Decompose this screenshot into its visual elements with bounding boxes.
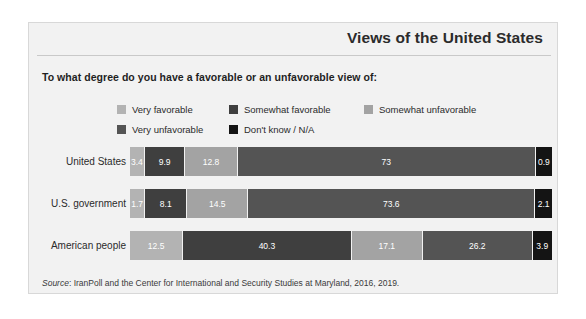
legend-item-very-unfavorable: Very unfavorable	[117, 124, 229, 135]
bar-segment-very-favorable: 1.7	[130, 189, 144, 218]
bar-segment-somewhat-favorable: 40.3	[182, 231, 350, 260]
source-label: Source	[42, 278, 69, 288]
bar-segment-value: 3.9	[536, 241, 548, 251]
bar-row-label: American people	[42, 240, 130, 251]
chart-card: Views of the United States To what degre…	[28, 22, 558, 294]
bar-segment-somewhat-unfavorable: 14.5	[186, 189, 247, 218]
bar-segment-value: 14.5	[209, 199, 226, 209]
legend-item-very-favorable: Very favorable	[117, 104, 229, 115]
legend-label: Somewhat favorable	[244, 104, 331, 115]
legend-row: Very unfavorable Don't know / N/A	[117, 119, 537, 139]
bar-track: 1.7 8.1 14.5 73.6 2.1	[130, 189, 552, 218]
bar-segment-value: 0.9	[538, 157, 550, 167]
source-text: : IranPoll and the Center for Internatio…	[69, 278, 399, 288]
bar-segment-somewhat-favorable: 9.9	[144, 147, 184, 176]
bar-segment-very-unfavorable: 26.2	[422, 231, 531, 260]
chart-legend: Very favorable Somewhat favorable Somewh…	[117, 99, 537, 139]
bar-segment-value: 8.1	[160, 199, 172, 209]
bar-segment-very-favorable: 12.5	[130, 231, 182, 260]
bar-segment-value: 17.1	[379, 241, 396, 251]
bar-segment-very-unfavorable: 73	[237, 147, 535, 176]
legend-item-dont-know: Don't know / N/A	[229, 124, 364, 135]
legend-label: Somewhat unfavorable	[379, 104, 476, 115]
header-divider	[37, 55, 551, 56]
chart-question: To what degree do you have a favorable o…	[42, 71, 377, 83]
stacked-bar-plot: United States 3.4 9.9 12.8 73 0.9	[42, 147, 552, 273]
bar-track: 3.4 9.9 12.8 73 0.9	[130, 147, 552, 176]
bar-segment-very-unfavorable: 73.6	[247, 189, 534, 218]
bar-segment-very-favorable: 3.4	[130, 147, 144, 176]
bar-row-label: U.S. government	[42, 198, 130, 209]
bar-row-united-states: United States 3.4 9.9 12.8 73 0.9	[42, 147, 552, 176]
bar-segment-dont-know: 3.9	[532, 231, 552, 260]
legend-label: Very favorable	[132, 104, 193, 115]
legend-swatch-icon	[229, 105, 238, 114]
source-note: Source: IranPoll and the Center for Inte…	[42, 278, 399, 288]
bar-segment-somewhat-unfavorable: 12.8	[184, 147, 236, 176]
legend-swatch-icon	[117, 105, 126, 114]
bar-segment-value: 40.3	[259, 241, 276, 251]
bar-segment-dont-know: 0.9	[535, 147, 552, 176]
chart-header: Views of the United States	[29, 23, 557, 53]
legend-label: Don't know / N/A	[244, 124, 314, 135]
legend-item-somewhat-favorable: Somewhat favorable	[229, 104, 364, 115]
bar-segment-value: 26.2	[469, 241, 486, 251]
bar-segment-value: 1.7	[131, 199, 143, 209]
legend-label: Very unfavorable	[132, 124, 203, 135]
page-title: Views of the United States	[347, 29, 543, 47]
legend-row: Very favorable Somewhat favorable Somewh…	[117, 99, 537, 119]
bar-segment-somewhat-unfavorable: 17.1	[351, 231, 422, 260]
bar-segment-value: 12.5	[148, 241, 165, 251]
bar-segment-somewhat-favorable: 8.1	[144, 189, 186, 218]
bar-row-american-people: American people 12.5 40.3 17.1 26.2 3.9	[42, 231, 552, 260]
bar-segment-value: 12.8	[203, 157, 220, 167]
legend-swatch-icon	[229, 125, 238, 134]
bar-segment-dont-know: 2.1	[534, 189, 552, 218]
legend-swatch-icon	[117, 125, 126, 134]
bar-track: 12.5 40.3 17.1 26.2 3.9	[130, 231, 552, 260]
bar-segment-value: 3.4	[131, 157, 143, 167]
legend-item-somewhat-unfavorable: Somewhat unfavorable	[364, 104, 504, 115]
bar-segment-value: 73.6	[383, 199, 400, 209]
bar-segment-value: 9.9	[159, 157, 171, 167]
bar-row-us-government: U.S. government 1.7 8.1 14.5 73.6 2.1	[42, 189, 552, 218]
bar-segment-value: 2.1	[538, 199, 550, 209]
bar-row-label: United States	[42, 156, 130, 167]
legend-swatch-icon	[364, 105, 373, 114]
bar-segment-value: 73	[381, 157, 390, 167]
